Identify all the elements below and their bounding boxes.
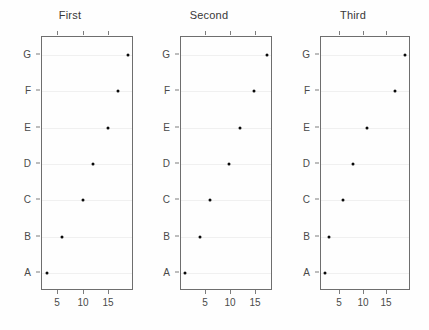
gridline <box>321 237 409 238</box>
y-tick-mark <box>315 163 319 164</box>
y-tick-mark <box>36 271 40 272</box>
dotplot-figure: First ABCDEFG51015 Second ABCDEFG51015 T… <box>0 0 429 330</box>
gridline <box>321 164 409 165</box>
data-point <box>81 199 84 202</box>
plot-area-third <box>320 36 410 290</box>
data-point <box>117 90 120 93</box>
y-tick-mark <box>36 90 40 91</box>
plot-area-second <box>180 36 272 290</box>
y-tick-label: E <box>15 121 31 132</box>
plot-area-first <box>41 36 133 290</box>
y-tick-mark <box>175 163 179 164</box>
y-tick-label: F <box>294 85 310 96</box>
gridline <box>181 91 271 92</box>
x-tick-label: 5 <box>329 297 349 308</box>
x-tick-mark-top <box>108 31 109 35</box>
data-point <box>352 163 355 166</box>
panel-title-second: Second <box>138 9 280 21</box>
data-point <box>61 235 64 238</box>
x-tick-label: 15 <box>245 297 265 308</box>
y-tick-mark <box>175 54 179 55</box>
data-point <box>183 271 186 274</box>
y-tick-mark <box>315 271 319 272</box>
gridline <box>42 164 132 165</box>
y-tick-label: F <box>15 85 31 96</box>
y-tick-mark <box>315 54 319 55</box>
y-tick-label: F <box>154 85 170 96</box>
x-tick-mark-top <box>255 31 256 35</box>
x-tick-mark-top <box>339 31 340 35</box>
x-tick-mark-top <box>363 31 364 35</box>
x-tick-mark-top <box>386 31 387 35</box>
y-tick-label: A <box>15 266 31 277</box>
gridline <box>321 200 409 201</box>
x-tick-label: 15 <box>376 297 396 308</box>
panel-second: Second ABCDEFG51015 <box>138 0 280 330</box>
x-tick-label: 15 <box>98 297 118 308</box>
data-point <box>208 199 211 202</box>
y-tick-label: G <box>154 49 170 60</box>
y-tick-label: G <box>294 49 310 60</box>
data-point <box>198 235 201 238</box>
gridline <box>181 200 271 201</box>
y-tick-label: B <box>154 230 170 241</box>
data-point <box>239 126 242 129</box>
y-tick-label: E <box>294 121 310 132</box>
y-tick-mark <box>36 163 40 164</box>
y-tick-mark <box>175 271 179 272</box>
data-point <box>327 235 330 238</box>
y-tick-label: D <box>15 158 31 169</box>
y-tick-mark <box>175 126 179 127</box>
data-point <box>266 54 269 57</box>
y-tick-label: G <box>15 49 31 60</box>
y-tick-label: B <box>294 230 310 241</box>
x-tick-mark-bottom <box>205 290 206 294</box>
gridline <box>181 128 271 129</box>
x-tick-mark-bottom <box>255 290 256 294</box>
data-point <box>107 126 110 129</box>
y-tick-mark <box>36 235 40 236</box>
data-point <box>228 163 231 166</box>
gridline <box>181 273 271 274</box>
y-tick-label: A <box>294 266 310 277</box>
y-tick-mark <box>315 235 319 236</box>
gridline <box>181 55 271 56</box>
x-tick-mark-bottom <box>108 290 109 294</box>
data-point <box>365 126 368 129</box>
gridline <box>321 273 409 274</box>
gridline <box>181 164 271 165</box>
y-tick-mark <box>36 54 40 55</box>
y-tick-mark <box>315 90 319 91</box>
y-tick-mark <box>175 199 179 200</box>
x-tick-mark-bottom <box>339 290 340 294</box>
x-tick-label: 5 <box>47 297 67 308</box>
gridline <box>42 200 132 201</box>
y-tick-mark <box>175 235 179 236</box>
x-tick-mark-bottom <box>83 290 84 294</box>
data-point <box>403 54 406 57</box>
gridline <box>42 55 132 56</box>
panel-title-first: First <box>0 9 140 21</box>
x-tick-mark-bottom <box>57 290 58 294</box>
x-tick-mark-top <box>230 31 231 35</box>
data-point <box>323 271 326 274</box>
y-tick-label: C <box>15 194 31 205</box>
x-tick-mark-bottom <box>386 290 387 294</box>
x-tick-label: 10 <box>220 297 240 308</box>
gridline <box>181 237 271 238</box>
data-point <box>393 90 396 93</box>
y-tick-label: B <box>15 230 31 241</box>
x-tick-mark-top <box>205 31 206 35</box>
gridline <box>42 237 132 238</box>
y-tick-mark <box>315 199 319 200</box>
y-tick-mark <box>175 90 179 91</box>
gridline <box>42 128 132 129</box>
x-tick-mark-bottom <box>230 290 231 294</box>
x-tick-mark-top <box>83 31 84 35</box>
gridline <box>42 273 132 274</box>
x-tick-mark-top <box>57 31 58 35</box>
data-point <box>252 90 255 93</box>
panel-third: Third ABCDEFG51015 <box>277 0 429 330</box>
y-tick-mark <box>36 199 40 200</box>
y-tick-label: D <box>294 158 310 169</box>
